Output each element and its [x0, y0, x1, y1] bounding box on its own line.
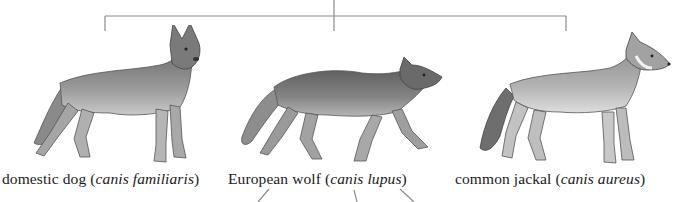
wolf-descendant-line-1	[258, 189, 269, 202]
common-jackal-illustration	[470, 28, 675, 168]
wolf-descendant-line-3	[400, 189, 414, 202]
phylogeny-diagram: domestic dog (canis familiaris) European…	[0, 0, 677, 202]
european-wolf-illustration	[232, 55, 447, 167]
common-jackal-common-name: common jackal	[455, 170, 551, 187]
wolf-descendant-line-2	[354, 190, 357, 202]
common-jackal-label: common jackal (canis aureus)	[455, 170, 645, 188]
domestic-dog-common-name: domestic dog	[2, 170, 86, 187]
european-wolf-common-name: European wolf	[228, 170, 321, 187]
domestic-dog-illustration	[10, 25, 230, 167]
european-wolf-scientific-name: canis lupus	[330, 170, 401, 187]
common-jackal-scientific-name: canis aureus	[561, 170, 640, 187]
domestic-dog-scientific-name: canis familiaris	[96, 170, 194, 187]
domestic-dog-label: domestic dog (canis familiaris)	[2, 170, 199, 188]
european-wolf-label: European wolf (canis lupus)	[228, 170, 407, 188]
